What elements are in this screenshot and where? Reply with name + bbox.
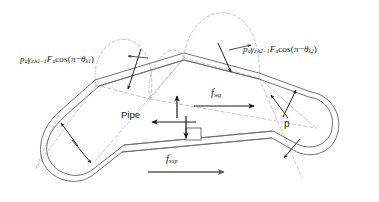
formula-leader-arrows [128,45,251,58]
f-sup-label: fsup [166,154,178,165]
dashed-load-lobes [95,13,259,99]
left-formula-cos: cos [55,54,68,64]
pipe-cross-section [186,128,201,140]
left-wall-force-formula: paγz,k1−1Facos(π−θk1) [20,55,94,65]
right-formula-close-paren: ) [314,44,317,54]
left-formula-gamma-sub: z,k1−1 [31,58,46,64]
tunnel-outer-wall [40,53,338,181]
right-formula-cos: cos [278,44,291,54]
diagram-canvas [0,0,379,202]
right-formula-gamma-sub: z,k2−1 [254,48,269,54]
f-sup-subscript: sup [169,157,178,164]
pressure-leader-arrow [271,95,288,118]
right-wall-force-formula: paγz,k2−1Facos(π−θk2) [243,45,317,55]
f-wg-label: fwg [211,88,221,99]
left-formula-close-paren: ) [91,54,94,64]
f-wg-subscript: wg [214,91,221,98]
pressure-label: p [284,119,290,129]
diagram-root: paγz,k1−1Facos(π−θk1) paγz,k2−1Facos(π−θ… [0,0,379,202]
pipe-label: Pipe [121,110,140,120]
